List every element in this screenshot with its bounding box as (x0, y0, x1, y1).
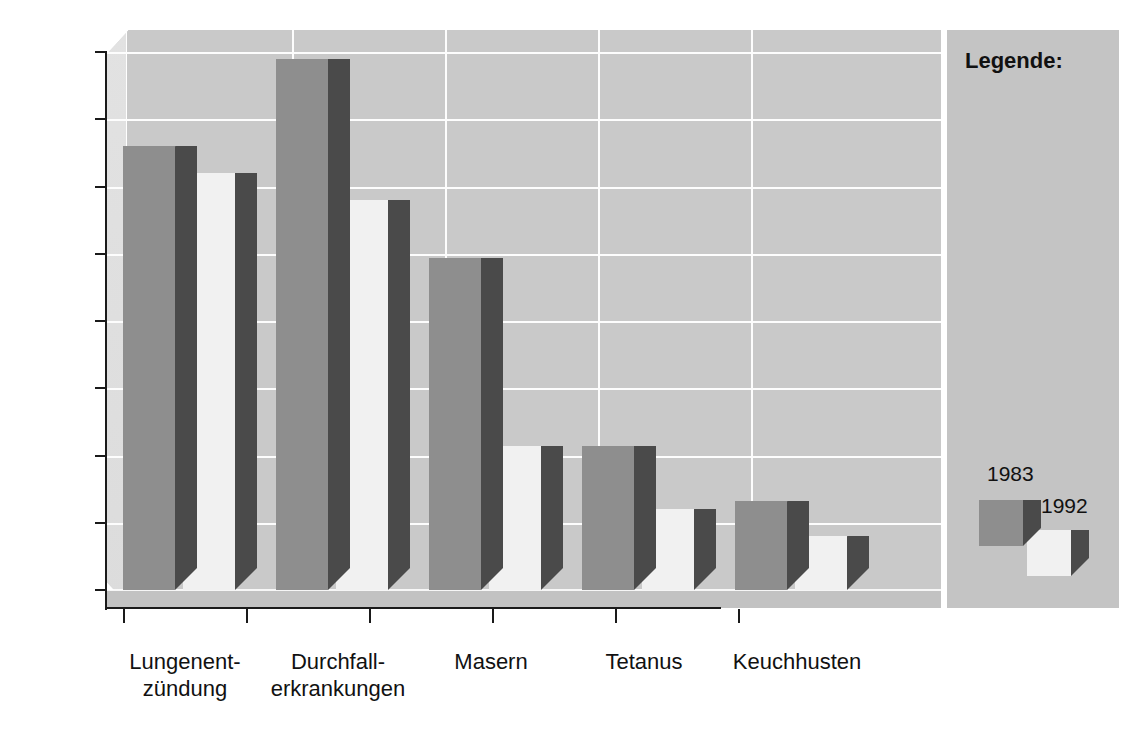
x-tick-mark (246, 609, 248, 623)
grouped-3d-bar-chart: 00,511,522,533,54 Lungenent- zündungDurc… (0, 0, 1135, 744)
legend-label-1983: 1983 (987, 462, 1034, 486)
bar-side-face (481, 258, 503, 590)
x-tick-mark (369, 609, 371, 623)
legend-swatch-1983 (979, 500, 1023, 546)
legend-title: Legende: (965, 48, 1063, 74)
plot-floor (107, 590, 941, 608)
bar-1983-2 (276, 59, 328, 590)
bar-side-face (388, 200, 410, 590)
x-axis-category-label: Masern (454, 648, 527, 675)
bar-1983-5 (735, 501, 787, 590)
y-tick-mark (95, 186, 107, 188)
y-tick-mark (95, 253, 107, 255)
legend-swatch-front-face (979, 500, 1023, 546)
bar-side-face (541, 446, 563, 590)
bar-front-face (582, 446, 634, 590)
legend-swatch-front-face (1027, 530, 1071, 576)
bar-front-face (123, 146, 175, 590)
y-tick-mark (95, 387, 107, 389)
x-axis-category-label: Durchfall- erkrankungen (271, 648, 406, 702)
legend-swatch-1992 (1027, 530, 1071, 576)
x-axis-category-label: Lungenent- zündung (129, 648, 240, 702)
x-axis-line (105, 607, 721, 609)
bar-1983-4 (582, 446, 634, 590)
y-tick-mark (95, 455, 107, 457)
y-tick-mark (95, 589, 107, 591)
y-tick-mark (95, 51, 107, 53)
bar-side-face (634, 446, 656, 590)
legend-label-1992: 1992 (1041, 494, 1088, 518)
gridline-horizontal (107, 119, 941, 121)
x-tick-mark (615, 609, 617, 623)
bar-side-face (175, 146, 197, 590)
plot-area (107, 30, 941, 608)
bar-1983-3 (429, 258, 481, 590)
corner-bevel-top (107, 30, 129, 54)
y-tick-mark (95, 118, 107, 120)
bar-front-face (429, 258, 481, 590)
y-tick-mark (95, 320, 107, 322)
y-tick-mark (95, 522, 107, 524)
legend-panel: Legende: 19831992 (947, 30, 1119, 608)
legend-swatches: 19831992 (969, 460, 1099, 580)
x-tick-mark (123, 609, 125, 623)
x-axis-category-label: Keuchhusten (733, 648, 861, 675)
x-tick-mark (492, 609, 494, 623)
x-axis-category-label: Tetanus (605, 648, 682, 675)
bar-1983-1 (123, 146, 175, 590)
gridline-horizontal (107, 52, 941, 54)
bar-front-face (276, 59, 328, 590)
bar-side-face (328, 59, 350, 590)
bar-side-face (235, 173, 257, 590)
bar-front-face (735, 501, 787, 590)
x-tick-mark (738, 609, 740, 623)
legend-swatch-side-face (1071, 530, 1089, 576)
